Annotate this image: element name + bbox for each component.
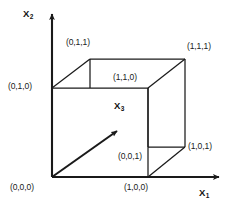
axis-label-x2: X2 — [23, 9, 33, 19]
cube-edge-depth-top-right — [148, 59, 185, 88]
x3-axis-line — [52, 131, 117, 177]
vertex-label-x1x3: (1,0,1) — [188, 142, 212, 151]
figure-canvas: X2 X1 X3 (0,0,0) (1,0,0) (0,1,0) (0,0,1)… — [0, 0, 238, 211]
vertex-label-x1x2: (1,1,0) — [113, 73, 137, 82]
vertex-label-x2x3: (0,1,1) — [66, 38, 90, 47]
axis-label-x1: X1 — [199, 188, 209, 198]
vertex-label-x1-unit: (1,0,0) — [124, 183, 148, 192]
cube-edge-depth-bottom-right — [148, 147, 185, 177]
vertex-label-x2-unit: (0,1,0) — [8, 82, 32, 91]
cube-edge-depth-top-left — [52, 59, 90, 88]
vertex-label-origin: (0,0,0) — [10, 183, 34, 192]
axis-label-x3: X3 — [114, 101, 124, 111]
vertex-label-x1x2x3: (1,1,1) — [187, 42, 211, 51]
vertex-label-x3-unit: (0,0,1) — [118, 152, 142, 161]
